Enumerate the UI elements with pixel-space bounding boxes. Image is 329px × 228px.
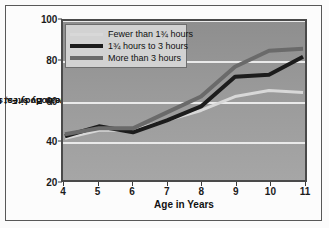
legend-swatch-0 bbox=[70, 33, 103, 36]
x-tick-mark-7 bbox=[167, 182, 168, 186]
x-tick-label-7: 7 bbox=[164, 186, 170, 197]
legend-swatch-2 bbox=[70, 56, 103, 60]
y-tick-label-80: 80 bbox=[46, 54, 57, 65]
x-tick-label-6: 6 bbox=[129, 186, 135, 197]
x-tick-label-8: 8 bbox=[199, 186, 205, 197]
legend-swatch-1 bbox=[70, 44, 103, 48]
x-tick-label-5: 5 bbox=[95, 186, 101, 197]
y-tick-label-60: 60 bbox=[46, 95, 57, 106]
legend-label-0: Fewer than 1¾ hours bbox=[108, 28, 193, 40]
x-tick-mark-11 bbox=[305, 182, 306, 186]
y-tick-label-20: 20 bbox=[46, 177, 57, 188]
figure-container: Mean Body Fat Index (mm of fat at five b… bbox=[0, 0, 329, 228]
series-line-1 bbox=[65, 57, 303, 137]
y-axis-ticks: 20406080100 bbox=[30, 19, 60, 182]
x-tick-mark-5 bbox=[98, 182, 99, 186]
y-tick-label-100: 100 bbox=[41, 14, 57, 25]
x-tick-mark-6 bbox=[132, 182, 133, 186]
legend: Fewer than 1¾ hours1¾ hours to 3 hoursMo… bbox=[65, 24, 187, 68]
x-axis-ticks: 4567891011 bbox=[61, 182, 307, 198]
x-tick-label-11: 11 bbox=[300, 186, 311, 197]
x-tick-mark-10 bbox=[270, 182, 271, 186]
x-tick-label-4: 4 bbox=[60, 186, 66, 197]
legend-label-2: More than 3 hours bbox=[108, 52, 181, 64]
x-tick-label-10: 10 bbox=[265, 186, 276, 197]
y-axis-title: Mean Body Fat Index (mm of fat at five b… bbox=[7, 19, 29, 182]
x-tick-mark-8 bbox=[201, 182, 202, 186]
x-axis-title: Age in Years bbox=[61, 199, 307, 210]
legend-item-2: More than 3 hours bbox=[70, 52, 182, 64]
y-tick-label-40: 40 bbox=[46, 136, 57, 147]
legend-item-0: Fewer than 1¾ hours bbox=[70, 28, 182, 40]
x-tick-label-9: 9 bbox=[233, 186, 239, 197]
legend-item-1: 1¾ hours to 3 hours bbox=[70, 40, 182, 52]
x-tick-mark-9 bbox=[236, 182, 237, 186]
x-tick-mark-4 bbox=[63, 182, 64, 186]
legend-label-1: 1¾ hours to 3 hours bbox=[108, 40, 188, 52]
